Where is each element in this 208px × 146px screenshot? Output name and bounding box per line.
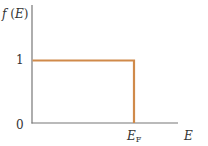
y-axis-label: f (E) [2,8,28,20]
chart-canvas [0,0,208,146]
x-tick-fermi-energy: EF [127,130,141,144]
y-tick-0: 0 [16,119,24,131]
step-function-curve [33,61,135,124]
y-tick-1: 1 [16,54,24,66]
fermi-dirac-step-chart: f (E) 1 0 EF E [0,0,208,146]
x-axis-label: E [184,130,193,142]
